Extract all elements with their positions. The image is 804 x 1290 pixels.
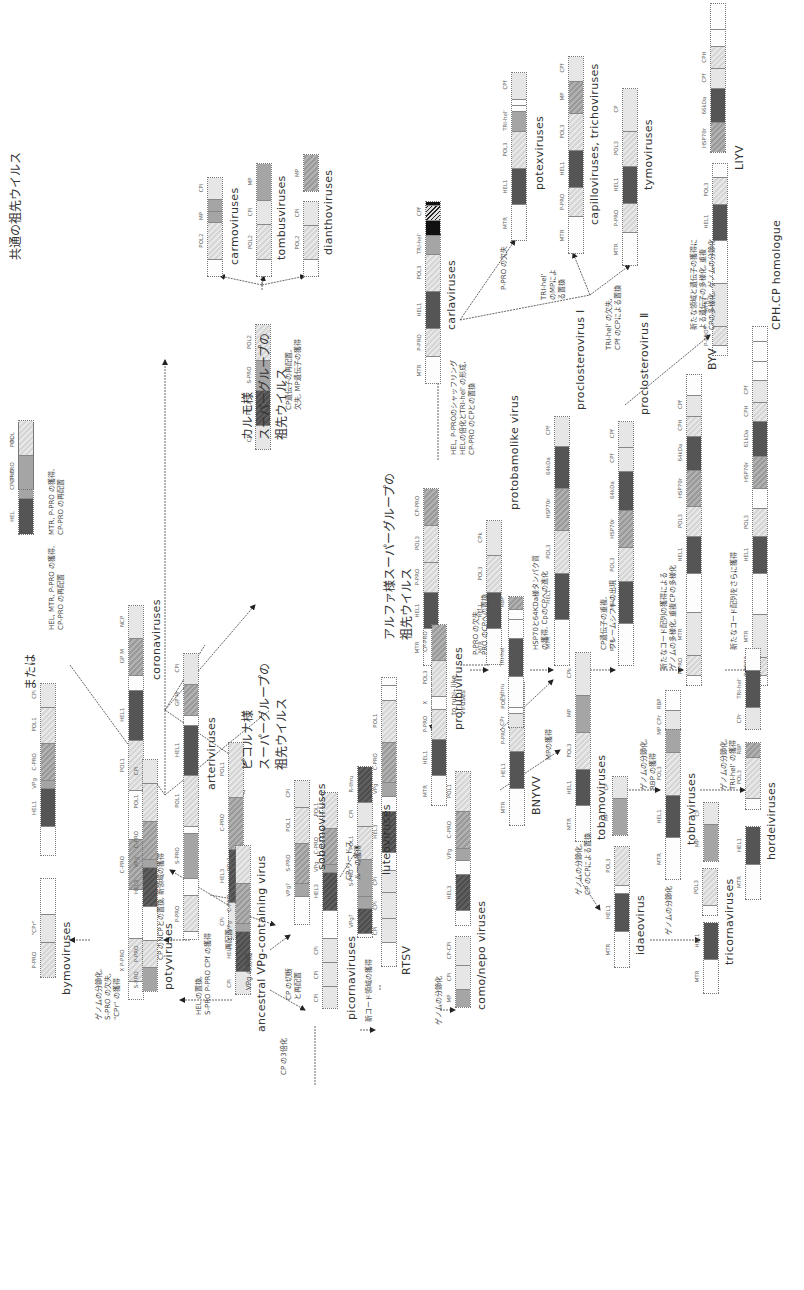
gene-label: [414, 219, 424, 234]
gene-segment: [208, 259, 222, 276]
gene-segment: [512, 168, 526, 205]
genome-labels-diantho1: POL2CPi: [292, 201, 302, 277]
gene-segment: [753, 380, 767, 402]
gene-segment: [753, 361, 767, 380]
gene-segment: [19, 455, 33, 489]
gene-label: POL1: [224, 845, 234, 883]
note-byv-ctv: 新たなコード配列をさらに獲得: [730, 552, 739, 650]
genome-labels-tricorna1: MTRHEL1: [692, 922, 702, 994]
note-poty-bymo: ゲノムの分節化, S-PRO の欠失, "CPr" の獲得: [95, 969, 122, 1020]
note-idaeo-tricorna: ゲノムの分節化: [665, 886, 674, 935]
gene-label: HEL3: [370, 811, 380, 852]
gene-segment: [619, 510, 633, 547]
gene-segment: [746, 649, 760, 670]
gene-segment: [569, 216, 583, 253]
gene-label: [675, 374, 685, 394]
gene-segment: [711, 122, 725, 152]
genome-bar-ctv: [752, 326, 768, 686]
name-diantho: dianthoviruses: [322, 170, 335, 255]
name-idaeo: idaeovirus: [634, 895, 647, 955]
gene-label: VPg?: [346, 908, 356, 934]
gene-label: 66kDa: [699, 88, 709, 123]
gene-segment: [41, 879, 55, 914]
gene-label: C-PRO: [370, 741, 380, 782]
gene-label: HEL1: [564, 769, 574, 806]
genome-labels-corona: X P-PROC-PROPOL1HEL1GP MNCP: [117, 605, 127, 1000]
gene-segment: [512, 204, 526, 240]
gene-segment: [382, 700, 396, 741]
gene-label: CPk: [475, 520, 485, 555]
name-luteo: luteoviruses: [380, 804, 393, 875]
name-rtsv: RTSV: [400, 946, 413, 975]
gene-label: POL3: [420, 659, 430, 696]
note-vpg-poty: HEL の置換, S-PRO P-PRO CPf の獲得: [195, 933, 213, 1015]
gene-label: POL2: [292, 225, 302, 260]
note-tobamo-idaeo: ゲノムの分節化, CP のCPによる置換: [575, 833, 593, 895]
gene-segment: [304, 202, 318, 225]
genome-labels-sobemo: VPg?S-PROPOL1CPi: [283, 780, 293, 925]
gene-label: [701, 163, 711, 176]
genome-labels-tombus: POL2CPiMP: [245, 163, 255, 277]
gene-segment: [382, 678, 396, 685]
gene-label: X: [420, 696, 430, 709]
gene-segment: [569, 113, 583, 150]
gene-label: S-PRO: [172, 833, 182, 878]
gene-label: P-thru: [497, 676, 507, 708]
gene-label: HSP70r: [699, 123, 709, 153]
genome-labels-poty: S-PROP-PROHEL3VPgC-PROPOL1CPi: [131, 759, 141, 992]
name-bnyvv: BNYVV: [530, 776, 543, 815]
gene-segment: [512, 105, 526, 111]
gene-segment: [456, 965, 470, 988]
gene-label: CPi: [283, 780, 293, 806]
genome-bar-como1: [455, 936, 471, 1008]
gene-segment: [623, 131, 637, 167]
gene-segment: [456, 874, 470, 911]
gene-segment: [687, 536, 701, 573]
gene-label: MTR: [557, 217, 567, 254]
gene-label: C-PRO: [217, 796, 227, 849]
genome-bar-closter2: [618, 421, 634, 666]
gene-label: HEL1: [741, 536, 751, 573]
gene-label: HEL1: [172, 724, 182, 775]
note-closter1-closter2: CP遺伝子の重複, フレームシフトの出現: [600, 580, 618, 650]
gene-label: HEL1: [29, 789, 39, 827]
gene-label: POL3: [500, 131, 510, 168]
gene-label: [311, 910, 321, 938]
genome-labels-hordei3: CPrTRI-hel': [734, 648, 744, 730]
gene-segment: [687, 655, 701, 675]
gene-segment: [129, 606, 143, 639]
common-ancestor-title: 共通の祖先ウイルス: [8, 152, 25, 260]
gene-label: [196, 259, 206, 277]
gene-label: VPg?: [283, 883, 293, 896]
gene-label: CPf: [741, 379, 751, 401]
name-capillo: capilloviruses, trichoviruses: [588, 63, 601, 225]
gene-segment: [41, 942, 55, 977]
genome-labels-idaeo1: MTRHEL1POL3: [603, 846, 613, 968]
gene-segment: [746, 798, 760, 809]
gene-segment: [753, 327, 767, 341]
gene-label: [245, 260, 255, 277]
note-carla-capillo: TRI-hel' のMPによ る置換: [540, 269, 567, 300]
gene-label: CP: [611, 88, 621, 130]
genome-bar-diantho2: [303, 154, 319, 192]
genome-labels-capillo: MTRP-PROHEL1POL3MPCPf: [557, 56, 567, 254]
gene-segment: [143, 868, 157, 906]
gene-segment: [569, 150, 583, 187]
gene-segment: [753, 421, 767, 456]
name-liyv: LIYV: [733, 145, 746, 170]
gene-segment: [746, 757, 760, 798]
gene-segment: [619, 471, 633, 511]
gene-segment: [236, 884, 250, 924]
genome-bar-closter1: [554, 416, 570, 666]
gene-label: [370, 852, 380, 870]
gene-label: [497, 708, 507, 714]
gene-label: C-PRO: [224, 883, 234, 923]
gene-segment: [576, 653, 590, 695]
gene-segment: [510, 788, 524, 825]
gene-label: [741, 488, 751, 508]
gene-segment: [432, 709, 446, 739]
gene-segment: [555, 417, 569, 446]
gene-segment: [424, 592, 438, 629]
gene-segment: [704, 803, 718, 824]
gene-segment: [619, 581, 633, 623]
